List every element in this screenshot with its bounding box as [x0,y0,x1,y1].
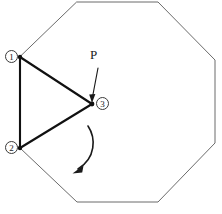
point-label-p: P [90,48,97,62]
triangle-shape [20,57,92,148]
figure-canvas: 1 2 3 P [0,0,222,214]
vertex-dot-1 [18,55,22,59]
octagon-outline [20,2,215,202]
vertex-dot-2 [18,146,22,150]
geometry-figure [0,0,222,214]
vertex-label-1: 1 [5,50,18,63]
vertex-label-2: 2 [5,141,18,154]
p-leader-line [93,68,99,97]
vertex-label-3: 3 [96,97,109,110]
rotation-arc [78,126,93,169]
